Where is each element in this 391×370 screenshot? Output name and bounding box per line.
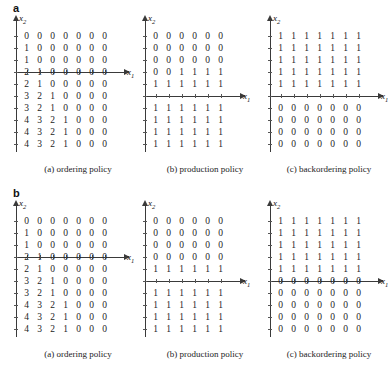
y-axis-tick xyxy=(268,60,272,61)
policy-grid-row: 111111 xyxy=(149,126,227,138)
policy-cell: 1 xyxy=(175,323,188,335)
y-axis-tick xyxy=(143,84,147,85)
policy-cell: 4 xyxy=(20,138,33,150)
plot-area: x2x1000000010000001000000210000021000003… xyxy=(14,14,142,154)
policy-grid-row: 111111 xyxy=(149,138,227,150)
policy-cell: 1 xyxy=(59,126,72,138)
policy-grid-row: 3210000 xyxy=(20,275,111,287)
policy-cell: 1 xyxy=(201,126,214,138)
policy-cell: 1 xyxy=(287,66,300,78)
policy-cell: 0 xyxy=(85,126,98,138)
policy-cell: 1 xyxy=(352,54,365,66)
policy-cell: 1 xyxy=(300,54,313,66)
policy-cell: 0 xyxy=(326,275,339,287)
policy-cell: 1 xyxy=(300,251,313,263)
policy-cell: 1 xyxy=(339,54,352,66)
policy-cell: 3 xyxy=(33,114,46,126)
policy-cell: 1 xyxy=(20,42,33,54)
policy-grid-row: 1000000 xyxy=(20,42,111,54)
y-axis-tick xyxy=(268,281,272,282)
policy-cell: 0 xyxy=(72,299,85,311)
policy-cell: 0 xyxy=(201,42,214,54)
policy-cell: 3 xyxy=(20,287,33,299)
y-axis-tick xyxy=(14,60,18,61)
policy-cell: 2 xyxy=(33,90,46,102)
policy-cell: 1 xyxy=(188,287,201,299)
policy-cell: 1 xyxy=(201,102,214,114)
policy-grid-row: 000000 xyxy=(149,251,227,263)
policy-cell: 1 xyxy=(162,138,175,150)
policy-cell: 1 xyxy=(162,299,175,311)
policy-cell: 0 xyxy=(59,227,72,239)
policy-cell: 0 xyxy=(72,239,85,251)
y-axis-tick xyxy=(14,132,18,133)
policy-cell: 0 xyxy=(300,323,313,335)
policy-cell: 1 xyxy=(313,263,326,275)
y-axis-tick xyxy=(14,305,18,306)
policy-cell: 1 xyxy=(300,30,313,42)
policy-cell: 0 xyxy=(72,102,85,114)
policy-cell: 0 xyxy=(352,114,365,126)
policy-cell: 0 xyxy=(313,311,326,323)
policy-cell: 1 xyxy=(162,263,175,275)
policy-cell xyxy=(313,90,326,102)
x-axis-label: x1 xyxy=(381,92,388,104)
policy-cell: 0 xyxy=(85,287,98,299)
policy-grid-row: 111111 xyxy=(149,287,227,299)
policy-cell: 2 xyxy=(46,323,59,335)
policy-cell: 1 xyxy=(188,299,201,311)
policy-cell: 0 xyxy=(59,90,72,102)
policy-cell: 1 xyxy=(274,251,287,263)
policy-grid-row: 4321000 xyxy=(20,126,111,138)
policy-cell: 0 xyxy=(274,114,287,126)
policy-cell: 0 xyxy=(313,102,326,114)
policy-cell: 0 xyxy=(162,42,175,54)
policy-cell: 1 xyxy=(188,311,201,323)
policy-cell: 1 xyxy=(188,138,201,150)
policy-cell: 0 xyxy=(59,251,72,263)
policy-cell xyxy=(352,90,365,102)
y-axis-tick xyxy=(14,293,18,294)
policy-cell: 1 xyxy=(287,54,300,66)
policy-cell: 0 xyxy=(46,42,59,54)
policy-cell: 0 xyxy=(46,54,59,66)
policy-cell: 0 xyxy=(85,42,98,54)
policy-grid-row: 001111 xyxy=(149,66,227,78)
policy-cell: 1 xyxy=(175,287,188,299)
policy-cell: 1 xyxy=(274,263,287,275)
policy-cell: 1 xyxy=(149,311,162,323)
policy-cell: 1 xyxy=(339,239,352,251)
policy-cell: 1 xyxy=(188,78,201,90)
policy-cell: 0 xyxy=(287,138,300,150)
policy-cell xyxy=(300,90,313,102)
panel-b-b: x2x1000000000000000000000000111111111111… xyxy=(143,199,267,367)
policy-cell: 1 xyxy=(175,138,188,150)
policy-cell: 0 xyxy=(33,30,46,42)
policy-cell: 0 xyxy=(214,54,227,66)
policy-cell: 1 xyxy=(214,66,227,78)
policy-cell: 1 xyxy=(214,78,227,90)
policy-cell: 0 xyxy=(214,239,227,251)
policy-cell: 1 xyxy=(352,30,365,42)
policy-cell: 0 xyxy=(59,42,72,54)
policy-figure: ax2x100000001000000100000021000002100000… xyxy=(0,0,391,370)
policy-cell: 1 xyxy=(300,78,313,90)
policy-cell: 0 xyxy=(175,227,188,239)
policy-cell: 0 xyxy=(20,30,33,42)
policy-cell: 0 xyxy=(326,311,339,323)
policy-cell: 1 xyxy=(352,251,365,263)
policy-cell: 1 xyxy=(188,102,201,114)
policy-cell: 1 xyxy=(188,126,201,138)
policy-cell: 0 xyxy=(201,54,214,66)
policy-cell: 0 xyxy=(72,30,85,42)
policy-cell: 1 xyxy=(162,102,175,114)
y-axis-label: x2 xyxy=(273,14,280,26)
policy-cell xyxy=(339,90,352,102)
policy-grid-row: 000000 xyxy=(149,54,227,66)
policy-cell: 0 xyxy=(214,30,227,42)
policy-cell: 1 xyxy=(352,215,365,227)
y-axis-tick xyxy=(143,305,147,306)
y-axis-tick xyxy=(14,245,18,246)
policy-cell: 2 xyxy=(46,114,59,126)
policy-cell: 0 xyxy=(352,311,365,323)
